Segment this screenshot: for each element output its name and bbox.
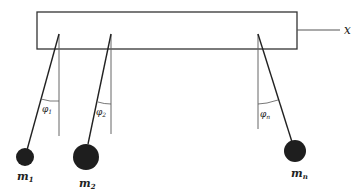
angle-label-1: φ1: [42, 104, 52, 115]
mass-label-1: m1: [17, 170, 34, 184]
angle-arc-2: [98, 102, 111, 104]
mass-2: [73, 144, 99, 170]
angle-arc-n: [258, 100, 278, 104]
string-1: [27, 34, 59, 150]
x-axis-label: x: [344, 23, 351, 37]
mass-label-n: mn: [291, 167, 308, 181]
angle-label-2: φ2: [96, 107, 106, 118]
mass-n: [284, 140, 306, 162]
mass-1: [16, 148, 34, 166]
pendulum-diagram: x φ1 m1 φ2 m2 φn mn: [0, 0, 361, 193]
pendulum-n: φn mn: [258, 34, 308, 181]
angle-arc-1: [41, 99, 59, 101]
pendulum-2: φ2 m2: [73, 34, 111, 191]
pendulum-1: φ1 m1: [16, 34, 59, 184]
string-n: [258, 34, 292, 142]
angle-label-n: φn: [260, 109, 270, 120]
mass-label-2: m2: [79, 177, 96, 191]
string-2: [88, 34, 111, 144]
